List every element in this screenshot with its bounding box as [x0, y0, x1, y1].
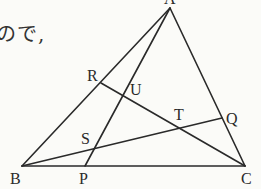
- label-a: A: [164, 0, 176, 7]
- label-r: R: [87, 67, 98, 84]
- label-c: C: [241, 170, 252, 187]
- label-q: Q: [226, 110, 238, 127]
- segment-ac: [170, 8, 245, 166]
- label-t: T: [174, 106, 184, 123]
- segment-ab: [22, 8, 170, 166]
- segment-ap: [85, 8, 170, 166]
- triangle-diagram: A B C P Q R S T U: [0, 0, 261, 189]
- label-u: U: [130, 81, 142, 98]
- label-b: B: [10, 170, 21, 187]
- segment-bq: [22, 118, 222, 166]
- segment-rc: [101, 83, 245, 166]
- label-p: P: [79, 170, 88, 187]
- label-s: S: [81, 130, 90, 147]
